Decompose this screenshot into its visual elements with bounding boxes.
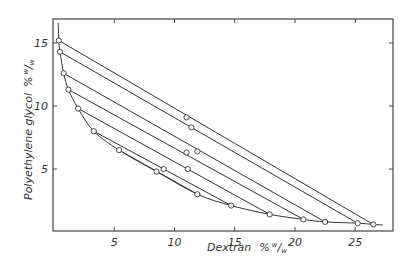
data-point-marker [189, 125, 194, 130]
data-point-marker [323, 219, 328, 224]
tie-line [78, 109, 270, 215]
data-point-marker [91, 129, 96, 134]
y-axis-label: Polyethylene glycol%w/w [22, 59, 36, 200]
data-point-marker [56, 38, 61, 43]
plot-frame-rect [53, 19, 393, 231]
tie-lines [59, 40, 374, 224]
data-point-marker [154, 169, 159, 174]
tie-line [64, 73, 325, 222]
data-point-marker [229, 203, 234, 208]
y-tick-label: 5 [41, 163, 48, 176]
plot-frame [53, 19, 393, 231]
data-point-marker [301, 217, 306, 222]
axis-ticks: 51015202551015 [34, 19, 393, 249]
data-point-marker [116, 148, 121, 153]
data-point-marker [161, 166, 166, 171]
x-tick-label: 20 [288, 236, 302, 249]
data-point-marker [195, 192, 200, 197]
data-point-marker [184, 115, 189, 120]
data-point-marker [267, 212, 272, 217]
x-tick-label: 10 [168, 236, 182, 249]
y-tick-label: 10 [34, 100, 48, 113]
data-point-marker [61, 71, 66, 76]
y-tick-label: 15 [34, 37, 48, 50]
x-tick-label: 5 [111, 236, 118, 249]
data-point-marker [66, 87, 71, 92]
data-point-marker [57, 49, 62, 54]
phase-diagram-chart: 51015202551015 Dextran%w/w Polyethylene … [0, 0, 415, 270]
data-point-marker [185, 166, 190, 171]
data-point-marker [76, 106, 81, 111]
data-point-marker [184, 150, 189, 155]
x-axis-label: Dextran%w/w [207, 241, 287, 255]
x-tick-label: 25 [348, 236, 362, 249]
data-point-marker [195, 149, 200, 154]
data-point-marker [371, 222, 376, 227]
data-point-marker [355, 221, 360, 226]
